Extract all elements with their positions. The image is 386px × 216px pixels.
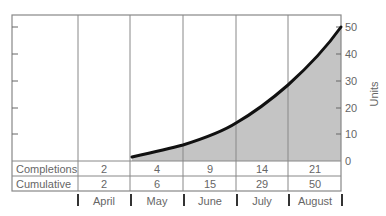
row-label-completions: Completions <box>16 163 78 175</box>
cumulative-july: 29 <box>256 178 268 190</box>
completions-april: 2 <box>101 163 107 175</box>
completions-may: 4 <box>154 163 160 175</box>
chart: 50 40 30 20 10 0 Units Completions Cumul… <box>0 0 386 216</box>
cumulative-april: 2 <box>101 178 107 190</box>
completions-june: 9 <box>207 163 213 175</box>
month-july: July <box>252 195 272 207</box>
month-labels: April May June July August <box>93 195 332 207</box>
cumulative-august: 50 <box>309 178 321 190</box>
y-tick-0: 0 <box>345 155 351 167</box>
y-tick-30: 30 <box>345 75 357 87</box>
month-april: April <box>93 195 115 207</box>
month-june: June <box>198 195 222 207</box>
completions-july: 14 <box>256 163 268 175</box>
y-tick-20: 20 <box>345 102 357 114</box>
completions-august: 21 <box>309 163 321 175</box>
cumulative-june: 15 <box>204 178 216 190</box>
month-august: August <box>298 195 332 207</box>
left-ticks <box>12 27 18 134</box>
month-may: May <box>147 195 168 207</box>
y-axis-label: Units <box>368 81 380 107</box>
y-tick-50: 50 <box>345 21 357 33</box>
y-tick-labels: 50 40 30 20 10 0 <box>345 21 357 167</box>
cumulative-may: 6 <box>154 178 160 190</box>
y-tick-40: 40 <box>345 48 357 60</box>
row-label-cumulative: Cumulative <box>16 178 71 190</box>
y-tick-10: 10 <box>345 128 357 140</box>
